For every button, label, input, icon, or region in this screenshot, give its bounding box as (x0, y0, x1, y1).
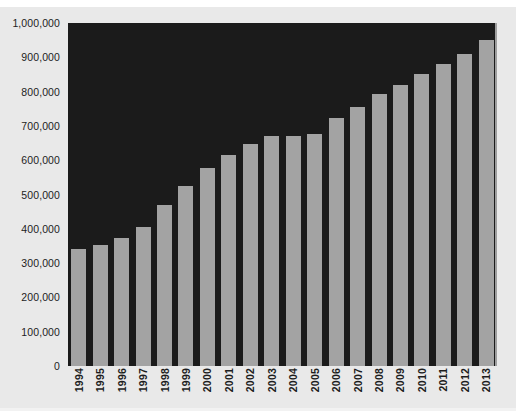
bar (329, 118, 344, 366)
x-axis-tick-label: 2010 (416, 368, 428, 392)
bars-layer (68, 23, 495, 366)
x-axis-tick-label: 1995 (94, 368, 106, 392)
bar (307, 134, 322, 366)
x-axis-tick-label: 2000 (201, 368, 213, 392)
x-axis-tick-label: 2012 (459, 368, 471, 392)
bar-chart-figure: 0100,000200,000300,000400,000500,000600,… (0, 0, 516, 411)
x-axis-tick-label: 2011 (437, 368, 449, 392)
y-axis-tick-label: 500,000 (21, 189, 60, 201)
x-axis-tick-label: 1998 (159, 368, 171, 392)
x-axis-tick-label: 2006 (330, 368, 342, 392)
bar (221, 155, 236, 366)
x-axis-tick-label: 2008 (373, 368, 385, 392)
y-axis-tick-label: 600,000 (21, 154, 60, 166)
bar (243, 144, 258, 366)
y-axis-tick-label: 900,000 (21, 51, 60, 63)
x-axis-tick-label: 2013 (480, 368, 492, 392)
y-axis-tick-label: 200,000 (21, 291, 60, 303)
x-axis-tick-label: 2001 (223, 368, 235, 392)
bar (372, 94, 387, 366)
x-axis-tick-label: 2009 (394, 368, 406, 392)
bar (414, 74, 429, 366)
x-axis: 1994199519961997199819992000200120022003… (68, 366, 497, 411)
plot-area (68, 23, 497, 366)
y-axis-tick-label: 700,000 (21, 120, 60, 132)
bar (157, 205, 172, 366)
x-axis-tick-label: 1996 (116, 368, 128, 392)
bar (393, 85, 408, 366)
bar (136, 227, 151, 366)
x-axis-tick-label: 2004 (287, 368, 299, 392)
figure-top-margin (0, 0, 516, 7)
y-axis-tick-label: 100,000 (21, 326, 60, 338)
x-axis-tick-label: 1994 (73, 368, 85, 392)
x-axis-tick-label: 2005 (309, 368, 321, 392)
bar (264, 136, 279, 366)
x-axis-tick-label: 2002 (244, 368, 256, 392)
bar (479, 40, 494, 366)
y-axis-tick-label: 1,000,000 (12, 17, 60, 29)
y-axis-tick-label: 400,000 (21, 223, 60, 235)
bar (286, 136, 301, 366)
bar (114, 238, 129, 366)
y-axis-tick-label: 300,000 (21, 257, 60, 269)
bar (93, 245, 108, 366)
bar (436, 64, 451, 366)
bar (200, 168, 215, 366)
bar (457, 54, 472, 366)
bar (350, 107, 365, 366)
y-axis-tick-label: 800,000 (21, 86, 60, 98)
x-axis-tick-label: 1997 (137, 368, 149, 392)
bar (71, 249, 86, 366)
y-axis: 0100,000200,000300,000400,000500,000600,… (0, 0, 64, 411)
x-axis-tick-label: 1999 (180, 368, 192, 392)
x-axis-tick-label: 2003 (266, 368, 278, 392)
bar (178, 186, 193, 366)
y-axis-tick-label: 0 (54, 360, 60, 372)
x-axis-tick-label: 2007 (352, 368, 364, 392)
